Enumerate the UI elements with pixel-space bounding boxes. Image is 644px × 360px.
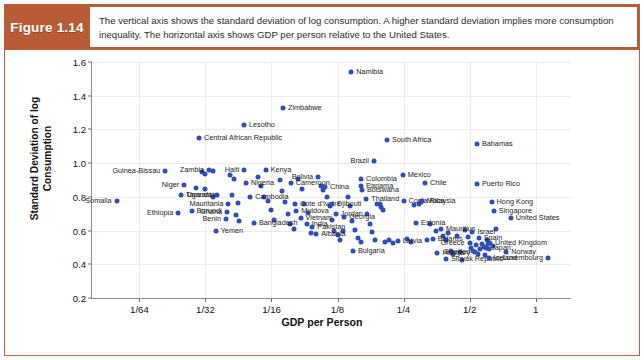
data-point [179, 192, 184, 197]
data-point-label: Ethiopia [147, 209, 173, 217]
data-point [280, 105, 285, 110]
data-point [225, 209, 230, 214]
data-point [207, 167, 212, 172]
figure-caption-text: The vertical axis shows the standard dev… [99, 14, 628, 41]
data-point [231, 177, 236, 182]
data-point [367, 221, 372, 226]
data-point-label: Yemen [221, 227, 243, 235]
data-point [241, 122, 246, 127]
scatter-plot-area: 0.20.40.60.81.01.21.41.61/641/321/161/81… [91, 62, 571, 299]
data-point [546, 255, 551, 260]
x-tick-mark [205, 298, 206, 302]
x-axis-title: GDP per Person [5, 316, 639, 328]
data-point-label: Lesotho [249, 121, 275, 129]
y-tick-mark [88, 95, 92, 96]
data-point-label: Namibia [356, 68, 383, 76]
data-point [400, 172, 405, 177]
y-tick-label: 0.8 [73, 191, 86, 202]
data-point [236, 201, 241, 206]
data-point-label: China [330, 183, 349, 191]
data-point-label: United States [516, 214, 560, 222]
y-tick-label: 1.6 [73, 57, 86, 68]
data-point [299, 187, 304, 192]
data-point [443, 257, 448, 262]
data-point [226, 202, 231, 207]
data-point-label: Cambodia [255, 193, 288, 201]
x-tick-mark [404, 298, 405, 302]
y-tick-mark [88, 163, 92, 164]
data-point [248, 195, 253, 200]
data-point [372, 237, 377, 242]
data-point [359, 188, 364, 193]
data-point [243, 180, 248, 185]
data-point [215, 193, 220, 198]
x-gridline [205, 62, 206, 298]
data-point [433, 228, 438, 233]
data-point [486, 255, 491, 260]
y-tick-label: 0.6 [73, 225, 86, 236]
x-tick-label: 1/32 [196, 304, 215, 315]
data-point [359, 239, 364, 244]
data-point [163, 169, 168, 174]
x-gridline [338, 62, 339, 298]
data-point-label: Greece [441, 239, 465, 247]
data-point [277, 178, 282, 183]
figure-container: Figure 1.14 The vertical axis shows the … [0, 0, 644, 360]
figure-caption-box: The vertical axis shows the standard dev… [89, 7, 637, 47]
data-point [371, 159, 376, 164]
data-point-label: Puerto Rico [482, 180, 520, 188]
data-point [251, 221, 256, 226]
y-tick-label: 0.2 [73, 293, 86, 304]
y-tick-mark [88, 129, 92, 130]
y-tick-mark [88, 264, 92, 265]
data-point [322, 185, 327, 190]
data-point [370, 230, 375, 235]
data-point [491, 208, 496, 213]
y-tick-mark [88, 230, 92, 231]
x-tick-mark [271, 298, 272, 302]
data-point-label: Hong Kong [497, 198, 534, 206]
data-point-label: Chile [430, 179, 447, 187]
data-point-label: Haiti [225, 166, 240, 174]
data-point [352, 227, 357, 232]
data-point-label: Georgia [349, 213, 375, 221]
y-gridline [92, 96, 571, 97]
y-gridline [92, 264, 571, 265]
data-point [268, 208, 273, 213]
x-tick-label: 1/8 [331, 304, 344, 315]
data-point [196, 136, 201, 141]
data-point [425, 237, 430, 242]
x-tick-label: 1/2 [463, 304, 476, 315]
data-point-label: Brazil [351, 157, 369, 165]
y-axis-title: Standard Deviation of log Consumption [29, 79, 54, 239]
data-point-label: Zimbabwe [288, 104, 322, 112]
data-point [224, 217, 229, 222]
x-tick-label: 1/64 [130, 304, 149, 315]
data-point-label: Mexico [408, 171, 431, 179]
data-point-label: Nigeria [251, 179, 274, 187]
data-point [470, 230, 475, 235]
data-point [310, 224, 315, 229]
figure-header: Figure 1.14 The vertical axis shows the … [4, 4, 640, 50]
x-tick-mark [470, 298, 471, 302]
data-point-label: Bahamas [482, 140, 513, 148]
x-tick-mark [536, 298, 537, 302]
data-point [484, 245, 489, 250]
data-point-label: Somalia [85, 197, 111, 205]
data-point [288, 181, 293, 186]
data-point [292, 201, 297, 206]
data-point-label: Bolivia [292, 173, 314, 181]
x-tick-label: 1/4 [397, 304, 410, 315]
data-point [333, 211, 338, 216]
figure-number-badge: Figure 1.14 [5, 5, 89, 49]
y-tick-label: 0.4 [73, 259, 86, 270]
x-gridline [536, 62, 537, 298]
data-point-label: Benin [202, 215, 221, 223]
data-point-label: Bangladesh [259, 219, 298, 227]
data-point [349, 70, 354, 75]
data-point-label: Guinea-Bissau [112, 167, 160, 175]
data-point-label: Sweden [444, 248, 470, 256]
data-point-label: Luxembourg [503, 254, 544, 262]
data-point [286, 211, 291, 216]
y-tick-label: 1.2 [73, 124, 86, 135]
